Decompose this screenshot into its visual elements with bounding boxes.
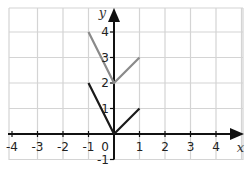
x-tick-label: -3 bbox=[32, 140, 44, 154]
graph: -4-3-2-101234-11234xy bbox=[0, 0, 248, 171]
x-tick-label: 1 bbox=[136, 140, 144, 154]
tick-labels: -4-3-2-101234-11234xy bbox=[6, 5, 245, 167]
y-axis-label: y bbox=[98, 5, 107, 20]
y-tick-label: 4 bbox=[101, 25, 109, 39]
grid bbox=[9, 8, 243, 160]
x-tick-label: 2 bbox=[161, 140, 169, 154]
x-axis-label: x bbox=[237, 140, 245, 155]
x-tick-label: 4 bbox=[212, 140, 220, 154]
x-tick-label: 3 bbox=[187, 140, 195, 154]
x-tick-label: -2 bbox=[57, 140, 69, 154]
x-tick-label: -1 bbox=[83, 140, 95, 154]
y-tick-label: 2 bbox=[101, 76, 109, 90]
axes bbox=[8, 8, 244, 160]
y-tick-label: 3 bbox=[101, 51, 109, 65]
y-tick-label: -1 bbox=[97, 153, 109, 167]
y-tick-label: 1 bbox=[101, 102, 109, 116]
y-axis-arrow-icon bbox=[108, 8, 120, 22]
x-tick-label: -4 bbox=[6, 140, 18, 154]
